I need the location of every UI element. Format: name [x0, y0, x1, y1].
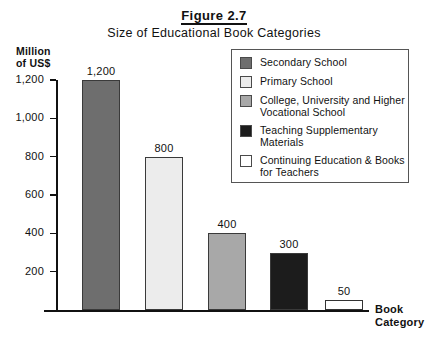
- y-axis-tick-label: 1,200: [0, 73, 44, 85]
- legend-item-label: Secondary School: [260, 56, 347, 68]
- legend-swatch: [240, 57, 252, 69]
- legend-item-label-line2: for Teachers: [260, 166, 405, 178]
- x-axis-title-line1: Book: [375, 303, 424, 316]
- legend-item-label: Primary School: [260, 75, 333, 87]
- legend-item-label: Continuing Education & Booksfor Teachers: [260, 154, 405, 178]
- legend-item[interactable]: College, University and HigherVocational…: [240, 94, 408, 118]
- legend-item-label-line1: Continuing Education & Books: [260, 154, 405, 166]
- bar[interactable]: [82, 80, 120, 310]
- y-axis-tick: [50, 271, 56, 273]
- y-axis-tick-label: 200: [0, 265, 44, 277]
- chart-legend: Secondary SchoolPrimary SchoolCollege, U…: [231, 49, 409, 183]
- bar[interactable]: [270, 253, 308, 311]
- legend-swatch: [240, 125, 252, 137]
- y-axis-tick: [50, 156, 56, 158]
- y-axis-tick: [50, 79, 56, 81]
- y-axis-line: [56, 80, 58, 311]
- bar[interactable]: [145, 157, 183, 310]
- y-axis-tick-label: 400: [0, 226, 44, 238]
- legend-item-label-line2: Materials: [260, 136, 378, 148]
- y-axis-tick-label: 1,000: [0, 111, 44, 123]
- legend-item[interactable]: Secondary School: [240, 56, 408, 69]
- legend-swatch: [240, 95, 252, 107]
- bar-value-label: 300: [270, 238, 308, 250]
- legend-item-label-line2: Vocational School: [260, 106, 405, 118]
- legend-swatch: [240, 76, 252, 88]
- legend-item[interactable]: Continuing Education & Booksfor Teachers: [240, 154, 408, 178]
- y-axis-tick: [50, 118, 56, 120]
- bar-value-label: 800: [145, 142, 183, 154]
- y-axis-tick: [50, 194, 56, 196]
- y-axis-tick: [50, 233, 56, 235]
- legend-item[interactable]: Teaching SupplementaryMaterials: [240, 124, 408, 148]
- legend-item-label-line1: Secondary School: [260, 56, 347, 68]
- y-axis-tick-label: 600: [0, 188, 44, 200]
- legend-item-label-line1: College, University and Higher: [260, 94, 405, 106]
- bar[interactable]: [208, 233, 246, 310]
- x-axis-title: Book Category: [375, 303, 424, 329]
- legend-swatch: [240, 155, 252, 167]
- bar-value-label: 50: [325, 285, 363, 297]
- x-axis-title-line2: Category: [375, 316, 424, 329]
- bar-value-label: 1,200: [82, 65, 120, 77]
- y-axis-tick-label: 800: [0, 150, 44, 162]
- legend-item-label-line1: Teaching Supplementary: [260, 124, 378, 136]
- legend-item[interactable]: Primary School: [240, 75, 408, 88]
- bar-value-label: 400: [208, 218, 246, 230]
- legend-item-label: College, University and HigherVocational…: [260, 94, 405, 118]
- x-axis-line: [44, 310, 369, 312]
- legend-item-label-line1: Primary School: [260, 75, 333, 87]
- bar[interactable]: [325, 300, 363, 310]
- legend-item-label: Teaching SupplementaryMaterials: [260, 124, 378, 148]
